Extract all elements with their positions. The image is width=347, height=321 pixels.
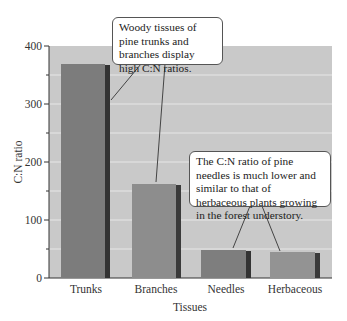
bar-branches xyxy=(132,184,181,278)
xtick-label: Needles xyxy=(207,283,245,295)
xtick-label: Branches xyxy=(135,283,178,295)
ytick-label: 300 xyxy=(25,98,43,110)
bar-herbaceous xyxy=(270,252,320,278)
ytick-label: 0 xyxy=(36,272,42,284)
x-axis-label: Tissues xyxy=(173,301,208,313)
xtick-label: Herbaceous xyxy=(268,283,323,295)
ytick-label: 400 xyxy=(25,40,43,52)
callout-text: Woody tissues of pine trunks and branche… xyxy=(119,21,197,74)
xtick-label: Trunks xyxy=(70,283,103,295)
bar-trunks xyxy=(61,64,110,278)
callout-text: The C:N ratio of pine needles is much lo… xyxy=(196,155,317,221)
callout-woody-tissues: Woody tissues of pine trunks and branche… xyxy=(112,17,223,65)
ytick-label: 100 xyxy=(25,214,43,226)
ytick-label: 200 xyxy=(25,156,43,168)
y-axis-label: C:N ratio xyxy=(12,140,24,183)
callout-needles: The C:N ratio of pine needles is much lo… xyxy=(189,151,331,207)
bar-needles xyxy=(201,250,251,278)
